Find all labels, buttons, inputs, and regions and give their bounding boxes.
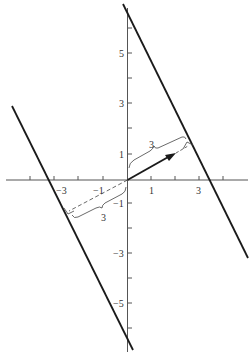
arrowhead-icon [165, 153, 176, 161]
y-tick-label: −3 [113, 248, 124, 259]
y-tick-label: 3 [119, 98, 124, 109]
dashed-perpendicular-upper [176, 146, 188, 153]
x-tick-label: −1 [93, 185, 104, 196]
x-tick-label: 1 [149, 185, 154, 196]
x-tick-label: −3 [56, 185, 67, 196]
y-tick-label: −5 [113, 298, 124, 309]
left-parallel-line [12, 106, 133, 350]
x-tick-label: 3 [196, 185, 201, 196]
normal-vector [128, 156, 171, 180]
diagram-canvas: −3 −1 1 3 5 3 1 −1 −3 −5 3 3 [0, 0, 252, 355]
x-axis-ticks [30, 176, 223, 180]
distance-label-upper: 3 [149, 139, 154, 150]
distance-label-lower: 3 [101, 212, 106, 223]
y-tick-label: 5 [119, 48, 124, 59]
y-tick-label: −1 [113, 198, 124, 209]
y-tick-label: 1 [119, 149, 124, 160]
right-parallel-line [123, 4, 248, 258]
